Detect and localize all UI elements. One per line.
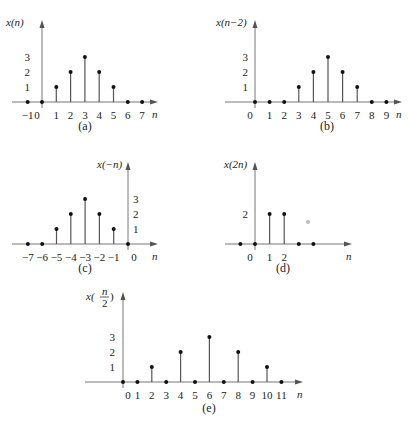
x-tick-label: 7 [221, 389, 227, 401]
y-tick-label: 2 [243, 66, 249, 78]
y-axis-arrow-icon [253, 162, 258, 170]
signal-figure: x(n)n123−101234567(a)x(n−2)n123012345678… [0, 0, 408, 432]
sample-point [121, 380, 125, 384]
x-tick-label: −5 [51, 251, 63, 263]
x-tick-label: 0 [125, 389, 131, 401]
sample-point [311, 242, 315, 246]
sample-point [69, 212, 73, 216]
x-tick-label: 9 [384, 109, 390, 121]
x-tick-label: 8 [235, 389, 241, 401]
x-tick-label: 8 [369, 109, 375, 121]
x-axis-label: n [152, 250, 158, 262]
y-tick-label: 2 [25, 66, 31, 78]
sample-point [282, 212, 286, 216]
subplot-d: x(2n)n2012(d) [223, 158, 352, 275]
x-tick-label: 9 [250, 389, 256, 401]
x-tick-label: 4 [178, 389, 184, 401]
x-tick-label: 5 [192, 389, 198, 401]
sample-point [26, 242, 30, 246]
x-tick-label: 2 [281, 109, 287, 121]
x-axis-arrow-icon [394, 100, 402, 105]
subplot-c: x(−n)n123−7−6−5−4−3−2−10(c) [12, 158, 158, 275]
x-tick-label: −4 [65, 251, 77, 263]
y-tick-label: 3 [243, 51, 249, 63]
sample-point [69, 70, 73, 74]
sample-point [126, 242, 130, 246]
sample-point [251, 380, 255, 384]
x-tick-label: 11 [276, 389, 287, 401]
y-tick-label: 1 [133, 223, 139, 235]
sample-point [112, 227, 116, 231]
sample-point [297, 85, 301, 89]
sample-point [311, 70, 315, 74]
y-axis-label: x(−n) [96, 158, 122, 171]
x-tick-label: 0 [34, 109, 40, 121]
sample-point [297, 242, 301, 246]
y-tick-label: 2 [110, 346, 116, 358]
subplot-caption: (a) [78, 119, 91, 133]
sample-point [384, 100, 388, 104]
y-tick-label: 3 [110, 331, 116, 343]
sample-point [179, 350, 183, 354]
sample-point [55, 227, 59, 231]
x-tick-label: 1 [267, 109, 273, 121]
subplot-caption: (c) [78, 261, 91, 275]
sample-point [222, 380, 226, 384]
x-tick-label: 3 [296, 109, 302, 121]
x-tick-label: 6 [125, 109, 131, 121]
x-tick-label: 1 [135, 389, 141, 401]
x-tick-label: 0 [131, 251, 137, 263]
y-tick-label: 3 [25, 51, 31, 63]
y-axis-arrow-icon [253, 20, 258, 28]
y-axis-arrow-icon [126, 162, 131, 170]
svg-text:n: n [102, 285, 108, 297]
sample-point [164, 380, 168, 384]
sample-point [54, 85, 58, 89]
sample-point [268, 212, 272, 216]
sample-point [268, 100, 272, 104]
x-axis-label: n [346, 250, 352, 262]
sample-point [236, 350, 240, 354]
sample-point [238, 242, 242, 246]
subplot-a: x(n)n123−101234567(a) [5, 16, 158, 133]
sample-point [279, 380, 283, 384]
x-tick-label: 0 [247, 109, 253, 121]
y-axis-label: x(n) [5, 16, 24, 29]
x-tick-label: 6 [207, 389, 213, 401]
x-axis-arrow-icon [150, 242, 158, 247]
subplot-e: x(n2)n12301234567891011(e) [85, 285, 303, 415]
y-tick-label: 3 [133, 193, 139, 205]
sample-point [26, 100, 30, 104]
sample-point [40, 242, 44, 246]
x-tick-label: 4 [96, 109, 102, 121]
sample-point [282, 100, 286, 104]
sample-point [326, 55, 330, 59]
x-tick-label: 1 [267, 251, 273, 263]
y-axis-label: x(2n) [223, 158, 248, 171]
x-tick-label: −1 [22, 109, 34, 121]
x-axis-label: n [152, 108, 158, 120]
sample-point [253, 242, 257, 246]
x-tick-label: 3 [163, 389, 169, 401]
y-tick-label: 1 [243, 81, 249, 93]
x-axis-label: n [297, 388, 303, 400]
x-tick-label: −7 [22, 251, 34, 263]
x-tick-label: 1 [54, 109, 60, 121]
sample-point [83, 197, 87, 201]
sample-point [207, 335, 211, 339]
sample-point [370, 100, 374, 104]
y-tick-label: 2 [243, 208, 249, 220]
sample-point [97, 212, 101, 216]
x-axis-arrow-icon [344, 242, 352, 247]
x-tick-label: 2 [68, 109, 74, 121]
x-tick-label: 10 [262, 389, 274, 401]
x-tick-label: 5 [111, 109, 117, 121]
x-tick-label: 0 [247, 251, 253, 263]
sample-point [97, 70, 101, 74]
stray-mark [306, 220, 310, 224]
sample-point [150, 365, 154, 369]
x-tick-label: −6 [36, 251, 48, 263]
svg-text:2: 2 [102, 297, 108, 309]
sample-point [253, 100, 257, 104]
y-axis-label: x( [85, 290, 96, 303]
